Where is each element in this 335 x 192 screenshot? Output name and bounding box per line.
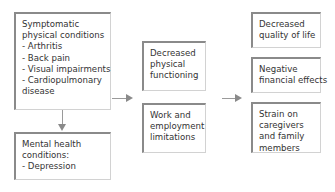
box-title-line: physical conditions [22, 30, 106, 41]
box-text-line: Work and [150, 110, 201, 121]
box-text-line: Strain on [259, 109, 316, 120]
box-text-line: employment [150, 121, 201, 132]
condition-item: - Visual impairments [22, 64, 106, 75]
box-text-line: physical [150, 59, 201, 70]
box-title-line: conditions: [22, 150, 106, 161]
box-text-line: functioning [150, 70, 201, 81]
down-arrow-icon [58, 124, 66, 131]
physical-conditions-box: Symptomatic physical conditions - Arthri… [14, 12, 111, 110]
negative-financial-effects-box: Negative financial effects [251, 57, 321, 93]
box-text-line: and family [259, 131, 316, 142]
box-text-line: Negative [259, 64, 316, 75]
decreased-quality-of-life-box: Decreased quality of life [251, 12, 321, 48]
box-text-line: financial effects [259, 75, 316, 86]
box-text-line: Decreased [150, 48, 201, 59]
mental-health-box: Mental health conditions: - Depression [14, 132, 111, 180]
box-text-line: caregivers [259, 120, 316, 131]
right-arrow-line [112, 98, 127, 99]
work-limitations-box: Work and employment limitations [142, 103, 206, 153]
box-title-line: Mental health [22, 139, 106, 150]
right-arrow-line [222, 98, 236, 99]
box-title-line: Symptomatic [22, 19, 106, 30]
decreased-physical-functioning-box: Decreased physical functioning [142, 41, 206, 91]
caregiver-strain-box: Strain on caregivers and family members [251, 102, 321, 153]
condition-item: - Arthritis [22, 41, 106, 52]
box-text-line: limitations [150, 132, 201, 143]
box-text-line: members [259, 143, 316, 154]
box-text-line: quality of life [259, 30, 316, 41]
down-arrow-line [62, 110, 63, 125]
condition-item: - Cardiopulmonary [22, 75, 106, 86]
condition-item: - Back pain [22, 53, 106, 64]
condition-item: - Depression [22, 161, 106, 172]
right-arrow-icon [235, 94, 242, 102]
box-text-line: Decreased [259, 19, 316, 30]
condition-item: disease [22, 86, 106, 97]
right-arrow-icon [126, 94, 133, 102]
